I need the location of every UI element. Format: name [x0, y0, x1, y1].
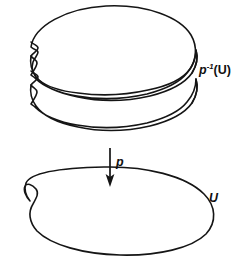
- covering-space-figure: p-1(U) p U: [0, 0, 245, 266]
- base-open-set: [24, 167, 213, 255]
- sheet-top: [31, 6, 195, 95]
- base-blob-outline: [24, 167, 213, 255]
- label-preimage-base: p: [199, 63, 207, 77]
- label-preimage-exponent: -1: [207, 62, 214, 71]
- label-preimage-argument: (U): [214, 63, 231, 77]
- label-projection-map: p: [116, 156, 124, 169]
- label-open-set-u: U: [209, 192, 218, 205]
- figure-canvas: [0, 0, 245, 266]
- sheet-middle: [31, 42, 197, 100]
- sheet-bottom-outline: [31, 79, 197, 130]
- label-preimage-of-u: p-1(U): [199, 63, 231, 77]
- sheet-top-outline: [31, 6, 195, 95]
- sheet-middle-outline: [31, 50, 197, 100]
